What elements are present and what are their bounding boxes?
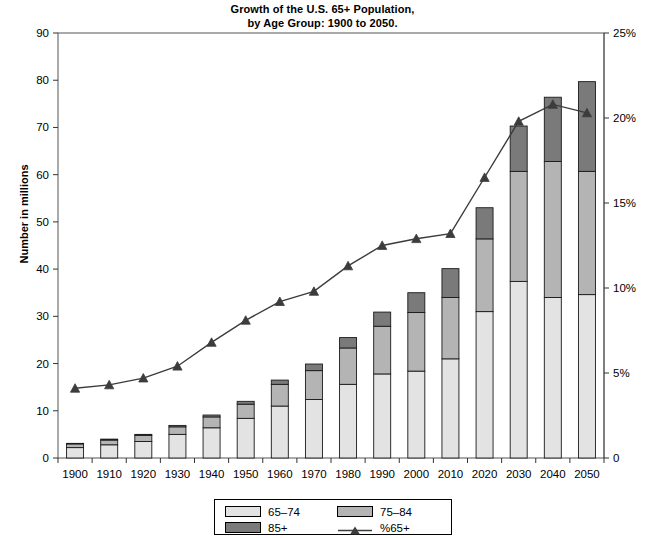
bar-segment — [101, 440, 118, 445]
y-tick-label-right: 15% — [613, 197, 636, 209]
bar-segment — [135, 434, 152, 435]
y-tick-label-left: 80 — [36, 74, 49, 86]
x-tick-label: 1960 — [267, 468, 293, 480]
legend-label-pct-65-plus: %65+ — [380, 522, 410, 534]
bar-segment — [476, 208, 493, 239]
bar-segment — [305, 364, 322, 371]
bar-segment — [544, 161, 561, 297]
bar-segment — [237, 404, 254, 418]
x-tick-label: 2040 — [540, 468, 566, 480]
legend-item-pct-65-plus[interactable]: %65+ — [337, 520, 410, 535]
bar-segment — [271, 384, 288, 406]
x-tick-label: 2020 — [472, 468, 498, 480]
x-tick-label: 1940 — [199, 468, 225, 480]
legend-label-65-74: 65–74 — [268, 506, 300, 518]
bar-segment — [340, 338, 357, 348]
x-tick-label: 2010 — [438, 468, 464, 480]
bar-segment — [578, 82, 595, 172]
line-marker-triangle — [446, 229, 455, 238]
bar-segment — [203, 415, 220, 417]
bar-segment — [578, 295, 595, 458]
x-tick-label: 1900 — [62, 468, 88, 480]
x-tick-label: 1920 — [131, 468, 157, 480]
y-tick-label-left: 40 — [36, 263, 49, 275]
bar-segment — [476, 312, 493, 458]
bar-segment — [305, 371, 322, 400]
bar-segment — [271, 406, 288, 458]
bar-segment — [169, 427, 186, 435]
chart-container: Growth of the U.S. 65+ Population, by Ag… — [0, 0, 645, 538]
x-tick-label: 1980 — [335, 468, 361, 480]
y-tick-label-right: 5% — [613, 367, 630, 379]
y-tick-label-left: 10 — [36, 405, 49, 417]
bar-segment — [305, 399, 322, 458]
y-tick-label-left: 20 — [36, 358, 49, 370]
bar-segment — [340, 348, 357, 384]
bar-segment — [374, 326, 391, 374]
line-marker-triangle — [173, 362, 182, 371]
legend-item-85-plus[interactable]: 85+ — [225, 520, 288, 535]
bar-segment — [510, 126, 527, 171]
bar-segment — [340, 384, 357, 458]
legend-swatch-85-plus — [225, 522, 261, 533]
y-tick-label-right: 10% — [613, 282, 636, 294]
line-marker-triangle — [139, 374, 148, 383]
line-marker-triangle — [207, 338, 216, 347]
y-tick-label-right: 0 — [613, 452, 619, 464]
bar-segment — [408, 371, 425, 458]
y-tick-label-left: 30 — [36, 310, 49, 322]
bar-segment — [408, 293, 425, 313]
x-tick-label: 1950 — [233, 468, 259, 480]
y-tick-label-left: 60 — [36, 169, 49, 181]
x-tick-label: 1990 — [369, 468, 395, 480]
x-tick-label: 2000 — [404, 468, 430, 480]
y-tick-label-right: 20% — [613, 112, 636, 124]
bar-segment — [135, 435, 152, 441]
bar-segment — [442, 269, 459, 298]
chart-legend: 65–74 75–84 85+ %65+ — [214, 499, 452, 535]
line-marker-triangle — [241, 316, 250, 325]
line-marker-triangle — [514, 117, 523, 126]
y-tick-label-left: 0 — [43, 452, 49, 464]
x-tick-label: 1930 — [165, 468, 191, 480]
legend-swatch-75-84 — [337, 506, 373, 517]
bar-segment — [442, 297, 459, 358]
bar-segment — [169, 434, 186, 458]
legend-swatch-65-74 — [225, 506, 261, 517]
bar-segment — [408, 313, 425, 372]
bar-segment — [544, 297, 561, 458]
bar-segment — [510, 171, 527, 281]
bar-segment — [101, 445, 118, 458]
y-tick-label-left: 90 — [36, 27, 49, 39]
legend-label-85-plus: 85+ — [268, 522, 288, 534]
line-marker-triangle — [343, 261, 352, 270]
bar-segment — [237, 401, 254, 404]
chart-plot-area: 010203040506070809005%10%15%20%25%190019… — [0, 0, 645, 538]
y-tick-label-left: 50 — [36, 216, 49, 228]
bar-segment — [510, 281, 527, 458]
bar-segment — [135, 441, 152, 458]
bar-segment — [67, 443, 84, 444]
bar-segment — [578, 171, 595, 294]
bar-segment — [374, 374, 391, 458]
bar-segment — [271, 380, 288, 384]
legend-line-marker-icon — [337, 522, 373, 533]
legend-label-75-84: 75–84 — [380, 506, 412, 518]
bar-segment — [374, 312, 391, 326]
x-tick-label: 1910 — [96, 468, 122, 480]
y-tick-label-left: 70 — [36, 121, 49, 133]
line-marker-triangle — [480, 173, 489, 182]
bar-segment — [67, 448, 84, 458]
line-marker-triangle — [309, 287, 318, 296]
bar-segment — [169, 425, 186, 426]
bar-segment — [101, 439, 118, 440]
bar-segment — [442, 359, 459, 458]
bar-segment — [237, 418, 254, 458]
bar-segment — [203, 428, 220, 458]
legend-item-75-84[interactable]: 75–84 — [337, 504, 412, 519]
x-tick-label: 2030 — [506, 468, 532, 480]
x-tick-label: 1970 — [301, 468, 327, 480]
x-tick-label: 2050 — [574, 468, 600, 480]
y-tick-label-right: 25% — [613, 27, 636, 39]
legend-item-65-74[interactable]: 65–74 — [225, 504, 300, 519]
